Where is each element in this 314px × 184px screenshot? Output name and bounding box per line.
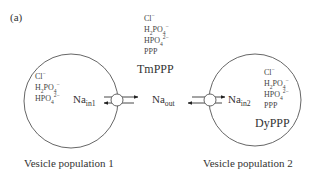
transporter-1 [104, 94, 138, 106]
na-out-label: Naout [152, 94, 175, 105]
ion-hydrogen-phosphate: HPO42− [35, 95, 60, 106]
ion-ppp: PPP [264, 102, 289, 113]
external-shift-reagent: TmPPP [137, 63, 174, 75]
transporter-2 [188, 94, 225, 106]
vesicle-2-caption: Vesicle population 2 [203, 158, 293, 169]
vesicle-2-ion-list: Cl− H2PO4− HPO42− PPP [264, 69, 289, 113]
ion-ppp: PPP [144, 48, 169, 59]
vesicle-1-ion-list: Cl− H2PO4− HPO42− [35, 73, 60, 106]
vesicle-1-caption: Vesicle population 1 [24, 158, 114, 169]
external-ion-list: Cl− H2PO4− HPO42− PPP [144, 15, 169, 59]
na-in2-label: Nain2 [228, 94, 251, 105]
na-in1-label: Nain1 [73, 94, 96, 105]
panel-label: (a) [10, 12, 22, 23]
vesicle-2-shift-reagent: DyPPP [255, 117, 290, 129]
